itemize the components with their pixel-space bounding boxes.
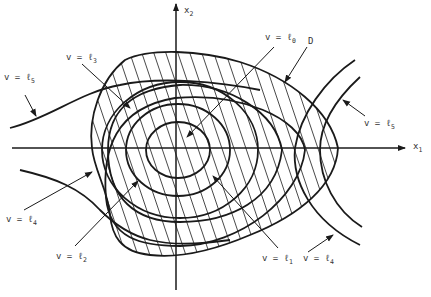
arrow-l4-right	[308, 235, 333, 252]
label-l0: v = ℓ0	[265, 32, 296, 45]
arrow-l0	[187, 47, 274, 137]
label-l4-right: v = ℓ4	[303, 253, 334, 266]
arrow-d	[285, 47, 307, 82]
label-l5-left: v = ℓ5	[4, 72, 35, 85]
label-l5-right: v = ℓ5	[364, 118, 395, 131]
level-curve-l0	[146, 122, 210, 178]
level-set-diagram: x1 x2 v = ℓ0 D v = ℓ3 v = ℓ5 v = ℓ5 v = …	[0, 0, 431, 297]
level-curve-l1	[126, 104, 230, 196]
arrow-l4-left	[24, 172, 92, 210]
x2-axis-label: x2	[184, 5, 193, 18]
label-l3: v = ℓ3	[66, 52, 97, 65]
label-l4-left: v = ℓ4	[6, 214, 37, 227]
label-d: D	[308, 36, 313, 46]
label-l2: v = ℓ2	[56, 251, 87, 264]
arrow-l5-left	[25, 95, 36, 116]
level-curve-l4-right	[320, 77, 362, 227]
x1-axis-label: x1	[413, 141, 422, 154]
label-l1: v = ℓ1	[262, 253, 293, 266]
arrow-l3	[82, 64, 130, 108]
axes	[12, 4, 405, 290]
arrow-l5-right	[343, 100, 365, 116]
